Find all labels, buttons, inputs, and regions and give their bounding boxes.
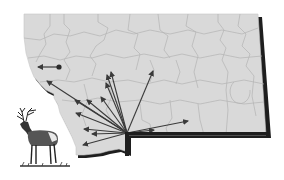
- montana-map: [0, 0, 284, 180]
- origin-marker: [125, 132, 129, 156]
- south-border-line: [125, 132, 267, 135]
- source-dot: [56, 64, 61, 69]
- map-figure: [0, 0, 284, 180]
